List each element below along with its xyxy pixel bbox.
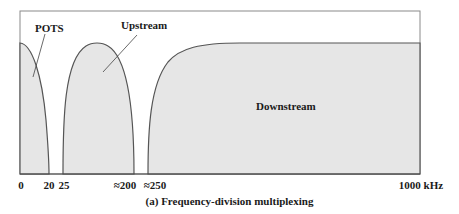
pots-band — [20, 43, 49, 174]
tick-20: 20 — [44, 179, 55, 191]
tick-250: ≈250 — [144, 179, 167, 191]
upstream-label: Upstream — [121, 19, 167, 31]
pots-label: POTS — [35, 22, 64, 34]
downstream-label: Downstream — [256, 100, 316, 112]
tick-25: 25 — [59, 179, 70, 191]
tick-0: 0 — [18, 179, 24, 191]
tick-200: ≈200 — [114, 179, 137, 191]
pots-leader-line — [33, 34, 45, 77]
figure-caption: (a) Frequency-division multiplexing — [0, 195, 459, 207]
tick-1000: 1000 kHz — [399, 179, 443, 191]
upstream-band — [63, 43, 134, 174]
